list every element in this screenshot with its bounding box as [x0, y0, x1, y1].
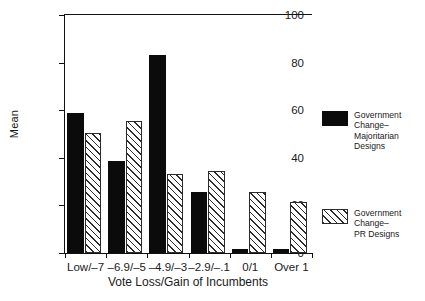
bar	[191, 192, 208, 253]
y-axis-tick	[59, 63, 65, 64]
y-axis-tick	[59, 110, 65, 111]
bar	[167, 174, 184, 253]
x-axis-tick-label: 0/1	[242, 261, 258, 273]
y-axis-tick-label: 60	[291, 104, 304, 116]
bar	[149, 55, 166, 253]
legend-item-pr: Government Change– PR Designs	[322, 208, 401, 239]
bar	[290, 202, 307, 253]
x-axis-tick	[230, 253, 231, 258]
bar	[108, 161, 125, 253]
legend-item-majoritarian: Government Change– Majoritarian Designs	[322, 110, 401, 152]
legend-label: Government Change– PR Designs	[354, 208, 401, 239]
x-axis-tick-label: –6.9/–5	[108, 261, 146, 273]
y-axis-tick-label: 40	[291, 152, 304, 164]
x-axis-label: Vote Loss/Gain of Incumbents	[64, 275, 312, 289]
bar-chart-figure: Mean 020406080100Low/–7–6.9/–5–4.9/–3–2.…	[0, 0, 425, 301]
y-axis-tick	[59, 15, 65, 16]
bar	[67, 113, 84, 253]
x-axis-tick-label: Over 1	[274, 261, 309, 273]
x-axis-tick	[312, 253, 313, 258]
x-axis-tick-label: Low/–7	[67, 261, 104, 273]
y-axis-tick-label: 80	[291, 57, 304, 69]
bar	[126, 121, 143, 253]
legend-label: Government Change– Majoritarian Designs	[354, 110, 401, 152]
bar	[208, 171, 225, 253]
bar	[273, 249, 290, 253]
y-axis-label: Mean	[8, 94, 20, 154]
x-axis-tick	[271, 253, 272, 258]
y-axis-tick-label: 100	[285, 9, 304, 21]
x-axis-tick-label: –4.9/–3	[149, 261, 187, 273]
y-axis-tick	[59, 158, 65, 159]
bar	[232, 249, 249, 253]
x-axis-tick-label: –2.9/–.1	[188, 261, 230, 273]
bar	[249, 192, 266, 253]
x-axis-tick	[147, 253, 148, 258]
y-axis-tick	[59, 205, 65, 206]
chart-legend: Government Change– Majoritarian Designs …	[322, 14, 425, 254]
legend-swatch-hatched-icon	[322, 209, 348, 224]
legend-swatch-solid-icon	[322, 111, 348, 126]
bar	[85, 133, 102, 253]
x-axis-tick	[189, 253, 190, 258]
x-axis-tick	[106, 253, 107, 258]
x-axis-tick	[65, 253, 66, 258]
plot-area: 020406080100Low/–7–6.9/–5–4.9/–3–2.9/–.1…	[64, 14, 312, 254]
